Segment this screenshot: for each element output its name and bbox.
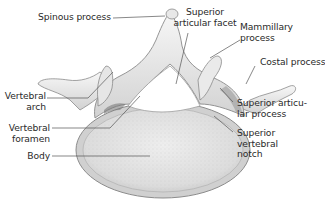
label-body: Body xyxy=(4,151,50,162)
label-line: process xyxy=(240,33,293,44)
label-line: foramen xyxy=(4,134,50,145)
label-line: articular facet xyxy=(170,18,240,29)
label-line: Superior xyxy=(170,7,240,18)
label-line: Mammillary xyxy=(240,22,293,33)
label-line: lar process xyxy=(237,109,307,120)
label-vertebral-foramen: Vertebral foramen xyxy=(4,123,50,144)
label-line: arch xyxy=(4,102,46,113)
label-mammillary-process: Mammillary process xyxy=(240,22,293,43)
label-line: notch xyxy=(237,149,278,160)
vertebra-diagram: Spinous process Superior articular facet… xyxy=(0,0,325,201)
vertebral-body-shape xyxy=(76,102,250,198)
label-line: Vertebral xyxy=(4,91,46,102)
label-superior-articular-facet: Superior articular facet xyxy=(170,7,240,28)
label-spinous-process: Spinous process xyxy=(38,12,111,23)
label-line: Vertebral xyxy=(4,123,50,134)
label-line: Superior xyxy=(237,128,278,139)
label-superior-vertebral-notch: Superior vertebral notch xyxy=(237,128,278,160)
label-vertebral-arch: Vertebral arch xyxy=(4,91,46,112)
label-costal-process: Costal process xyxy=(260,57,325,68)
label-superior-articular-process: Superior articu- lar process xyxy=(237,98,307,119)
label-line: Superior articu- xyxy=(237,98,307,109)
